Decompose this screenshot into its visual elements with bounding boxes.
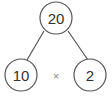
multiply-operator: × bbox=[53, 70, 59, 82]
right-child-node: 2 bbox=[74, 59, 106, 91]
edge-root-right bbox=[68, 31, 88, 60]
root-value: 20 bbox=[48, 10, 65, 27]
left-child-value: 10 bbox=[13, 67, 30, 84]
left-child-node: 10 bbox=[5, 59, 37, 91]
edge-root-left bbox=[27, 31, 44, 60]
root-node: 20 bbox=[40, 2, 72, 34]
right-child-value: 2 bbox=[86, 67, 94, 84]
factor-tree-diagram: 20 10 × 2 bbox=[0, 0, 112, 98]
